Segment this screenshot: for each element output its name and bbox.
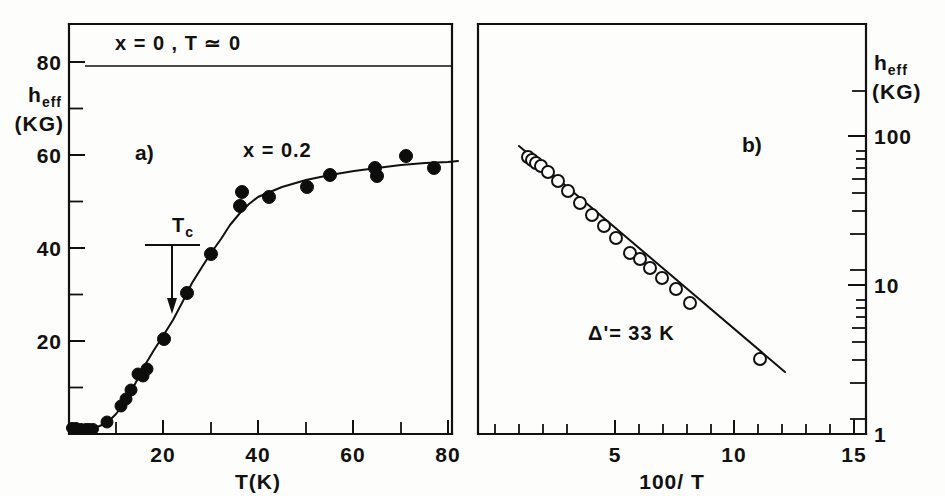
panel-b-yaxis-title-heff: heff	[874, 51, 908, 78]
panel-a-ylabel-20: 20	[37, 330, 62, 353]
panel-a-tc-arrow-head	[167, 298, 177, 314]
panel-a-id: a)	[135, 141, 154, 164]
panel-a-point	[125, 384, 137, 396]
panel-b-ylabel-1: 1	[874, 423, 887, 446]
panel-a-yaxis-title-units: (KG)	[15, 112, 65, 135]
figure-svg: 80 60 40 20 heff (KG) 20 40 60 80 T(K) x…	[0, 0, 945, 496]
panel-a-point	[101, 416, 113, 428]
panel-a-axes-frame	[69, 24, 452, 434]
panel-a-yaxis-h: h	[28, 83, 42, 106]
panel-a-tc-t: T	[172, 214, 185, 236]
panel-a-tc-sub-c: c	[185, 224, 194, 240]
panel-a-point	[181, 287, 194, 300]
panel-a-curve-label: x = 0.2	[243, 139, 312, 161]
panel-b-point	[610, 232, 622, 244]
panel-a-ylabel-40: 40	[37, 237, 62, 260]
panel-a-point	[400, 150, 413, 163]
panel-b-point	[574, 197, 586, 209]
panel-a-tc-label: Tc	[172, 214, 194, 240]
panel-b-yaxis-sub-eff: eff	[888, 62, 908, 78]
panel-b-point	[644, 262, 656, 274]
panel-b-ylabel-100: 100	[874, 125, 912, 148]
panel-b-point	[598, 220, 610, 232]
panel-b-xlabel-15: 15	[841, 443, 866, 466]
panel-a-tc-marker: Tc	[145, 214, 200, 314]
panel-a-point	[324, 169, 337, 182]
panel-a-xaxis-title: T(K)	[235, 470, 281, 493]
panel-a-point	[158, 333, 171, 346]
panel-a-reference-line-label: x = 0 , T ≃ 0	[115, 32, 241, 54]
panel-b-yaxis-title-units: (KG)	[872, 80, 922, 103]
panel-a-xlabel-60: 60	[340, 443, 365, 466]
panel-a-point	[205, 248, 218, 261]
panel-b-point	[670, 283, 682, 295]
panel-a-yaxis-sub-eff: eff	[42, 94, 62, 110]
panel-b-xlabel-10: 10	[721, 443, 746, 466]
panel-b-point	[754, 353, 766, 365]
panel-b-xlabel-5: 5	[609, 443, 622, 466]
panel-b-delta-label: Δ'= 33 K	[588, 322, 675, 344]
panel-a-yaxis-title-heff: heff	[28, 83, 62, 110]
figure-root: 80 60 40 20 heff (KG) 20 40 60 80 T(K) x…	[0, 0, 945, 496]
panel-a-point	[234, 200, 247, 213]
panel-b-point	[684, 297, 696, 309]
panel-b-point	[656, 272, 668, 284]
panel-b-axes-frame	[478, 24, 866, 434]
panel-a-ylabel-60: 60	[37, 144, 62, 167]
panel-b-xaxis-title: 100/ T	[639, 470, 705, 493]
panel-b-ylabel-10: 10	[874, 274, 899, 297]
panel-a-point	[428, 162, 441, 175]
panel-a-xlabel-40: 40	[245, 443, 270, 466]
panel-b-point	[552, 175, 564, 187]
panel-a-data-points	[67, 150, 441, 435]
panel-a-point	[141, 363, 153, 375]
panel-a-xlabel-80: 80	[435, 443, 460, 466]
panel-b-point	[586, 209, 598, 221]
panel-b-id: b)	[742, 133, 762, 156]
panel-b-point	[542, 166, 554, 178]
panel-a-point	[263, 191, 276, 204]
panel-a-point	[301, 181, 314, 194]
panel-a-point	[236, 186, 249, 199]
panel-a-point	[371, 170, 384, 183]
panel-b-yaxis-h: h	[874, 51, 888, 74]
panel-b: 100 10 1 heff (KG) 5 10 15	[478, 24, 922, 493]
panel-b-point	[634, 253, 646, 265]
panel-b-point	[562, 185, 574, 197]
panel-a-ylabel-80: 80	[37, 51, 62, 74]
panel-a-xlabel-20: 20	[150, 443, 175, 466]
panel-a: 80 60 40 20 heff (KG) 20 40 60 80 T(K) x…	[15, 24, 461, 493]
panel-a-point	[88, 424, 99, 435]
